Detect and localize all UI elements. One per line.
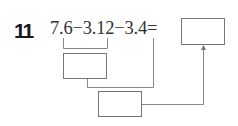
answer-box[interactable] bbox=[181, 18, 225, 45]
arrow-up-icon bbox=[201, 45, 206, 50]
step2-box[interactable] bbox=[98, 91, 142, 117]
step1-box[interactable] bbox=[63, 53, 107, 79]
